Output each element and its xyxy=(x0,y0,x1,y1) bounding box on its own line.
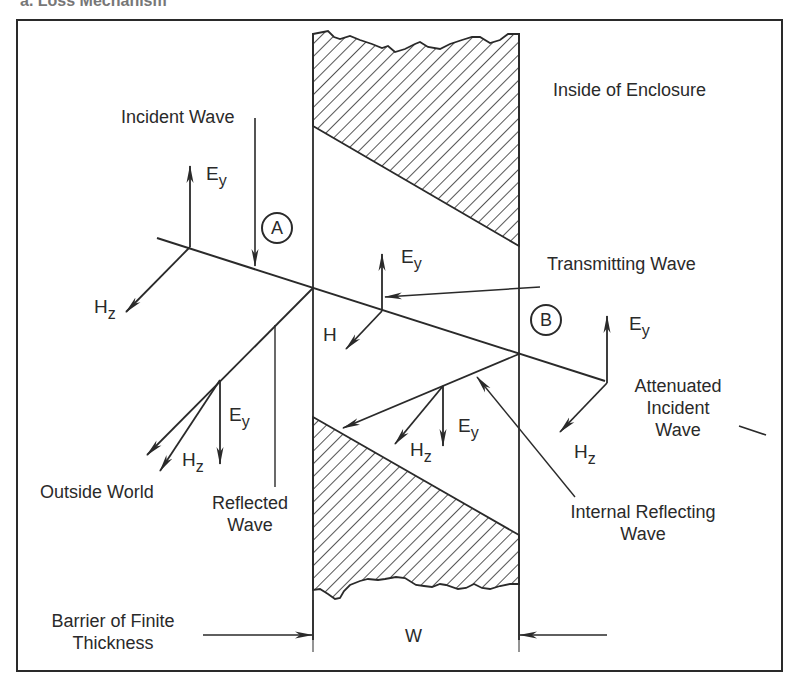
h-vector-transmitted xyxy=(346,311,382,349)
internal-reflected-ray xyxy=(343,354,519,428)
label-inside-enclosure: Inside of Enclosure xyxy=(553,79,706,101)
symbol-ey-transmitted: Ey xyxy=(401,247,422,274)
barrier-line-1: Barrier of Finite xyxy=(28,610,198,632)
hz-vector-incident xyxy=(126,247,190,312)
symbol-ey-incident: Ey xyxy=(206,164,227,191)
symbol-ey-attenuated: Ey xyxy=(629,314,650,341)
attenuated-line-1: Attenuated xyxy=(618,375,738,397)
hz-vector-internal xyxy=(395,386,443,444)
symbol-ey-internal: Ey xyxy=(458,416,479,443)
stray-mark xyxy=(739,426,766,435)
barrier-line-2: Thickness xyxy=(28,632,198,654)
label-barrier-finite-thickness: Barrier of Finite Thickness xyxy=(28,610,198,654)
symbol-h-transmitted: H xyxy=(323,325,337,345)
symbol-hz-incident: Hz xyxy=(94,297,116,324)
attenuated-line-3: Wave xyxy=(618,419,738,441)
reflected-line-1: Reflected xyxy=(200,492,300,514)
label-reflected-wave: Reflected Wave xyxy=(200,492,300,536)
symbol-hz-internal: Hz xyxy=(410,440,432,467)
internal-line-2: Wave xyxy=(548,523,738,545)
transmitting-wave-pointer xyxy=(385,287,540,297)
symbol-ey-reflected: Ey xyxy=(229,405,250,432)
label-incident-wave: Incident Wave xyxy=(121,106,234,128)
internal-reflecting-pointer xyxy=(477,377,575,497)
point-a-marker: A xyxy=(261,212,293,244)
symbol-hz-attenuated: Hz xyxy=(574,442,596,469)
symbol-hz-reflected: Hz xyxy=(182,450,204,477)
attenuated-line-2: Incident xyxy=(618,397,738,419)
label-attenuated-incident-wave: Attenuated Incident Wave xyxy=(618,375,738,441)
internal-line-1: Internal Reflecting xyxy=(548,501,738,523)
label-internal-reflecting-wave: Internal Reflecting Wave xyxy=(548,501,738,545)
point-b-marker: B xyxy=(530,304,562,336)
label-outside-world: Outside World xyxy=(40,481,154,503)
reflected-line-2: Wave xyxy=(200,514,300,536)
hz-vector-attenuated xyxy=(560,383,607,432)
barrier-top-hatch xyxy=(313,31,519,246)
label-width-w: W xyxy=(405,625,422,647)
shielding-diagram xyxy=(0,0,792,687)
label-transmitting-wave: Transmitting Wave xyxy=(547,253,696,275)
